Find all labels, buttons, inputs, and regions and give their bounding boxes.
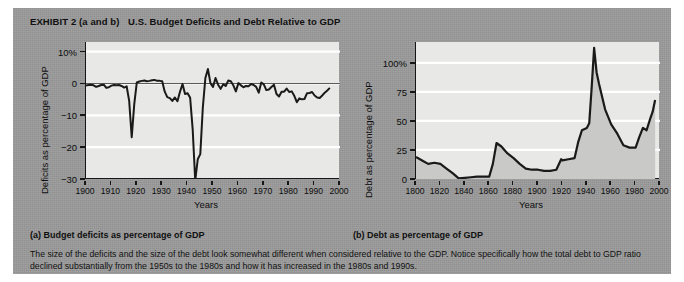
y-tick-label: −10: [25, 110, 77, 121]
x-tick-mark: [84, 181, 86, 185]
y-tick-mark: [80, 83, 85, 85]
x-tick-mark: [338, 181, 340, 185]
chart-panel-deficits: Deficits as percentage of GDP Years 10%0…: [25, 34, 345, 224]
chart-a-canvas: [86, 42, 340, 179]
x-tick-label: 1960: [228, 186, 247, 196]
x-tick-mark: [313, 181, 315, 185]
chart-b-x-axis-title: Years: [519, 199, 543, 210]
x-tick-mark: [512, 181, 514, 185]
x-tick-label: 1940: [177, 186, 196, 196]
y-tick-label: 25: [353, 144, 407, 155]
x-tick-mark: [211, 181, 213, 185]
x-tick-mark: [262, 181, 264, 185]
x-tick-label: 1980: [625, 186, 644, 196]
x-tick-mark: [160, 181, 162, 185]
x-tick-label: 1900: [527, 186, 546, 196]
x-tick-mark: [609, 181, 611, 185]
chart-a-plot-area: [85, 42, 339, 179]
x-tick-label: 1840: [454, 186, 473, 196]
chart-a-caption: (a) Budget deficits as percentage of GDP: [30, 230, 205, 240]
x-tick-mark: [658, 181, 660, 185]
x-tick-mark: [561, 181, 563, 185]
x-tick-label: 1930: [152, 186, 171, 196]
y-tick-mark: [410, 91, 415, 93]
y-tick-label: −30: [25, 174, 77, 185]
series-area: [416, 48, 655, 179]
chart-b-canvas: [416, 42, 660, 179]
y-tick-mark: [80, 114, 85, 116]
chart-b-caption: (b) Debt as percentage of GDP: [353, 230, 483, 240]
x-tick-label: 1940: [576, 186, 595, 196]
exhibit-note: The size of the deficits and the size of…: [30, 248, 650, 272]
x-tick-mark: [135, 181, 137, 185]
x-tick-label: 1900: [75, 186, 94, 196]
y-tick-label: 100%: [353, 57, 407, 68]
x-tick-mark: [287, 181, 289, 185]
y-tick-mark: [410, 62, 415, 64]
x-tick-mark: [487, 181, 489, 185]
chart-b-plot-area: [415, 42, 659, 179]
chart-panel-debt: Debt as percentage of GDP Years 100%7550…: [353, 34, 659, 224]
x-tick-label: 1990: [304, 186, 323, 196]
x-tick-mark: [536, 181, 538, 185]
x-tick-mark: [585, 181, 587, 185]
x-tick-label: 1860: [479, 186, 498, 196]
y-tick-mark: [410, 178, 415, 180]
y-tick-mark: [410, 120, 415, 122]
exhibit-label: EXHIBIT 2 (a and b): [30, 16, 120, 27]
x-tick-label: 1910: [101, 186, 120, 196]
exhibit-panel: EXHIBIT 2 (a and b) U.S. Budget Deficits…: [13, 8, 671, 274]
x-tick-label: 1800: [405, 186, 424, 196]
x-tick-label: 2000: [329, 186, 348, 196]
y-tick-label: 0: [353, 174, 407, 185]
chart-a-x-axis-title: Years: [194, 199, 218, 210]
x-tick-mark: [439, 181, 441, 185]
y-tick-label: 10%: [25, 46, 77, 57]
y-tick-label: 0: [25, 78, 77, 89]
x-tick-label: 1880: [503, 186, 522, 196]
y-tick-mark: [80, 51, 85, 53]
x-tick-label: 1820: [430, 186, 449, 196]
x-tick-label: 1970: [253, 186, 272, 196]
x-tick-label: 1920: [126, 186, 145, 196]
x-tick-mark: [186, 181, 188, 185]
x-tick-mark: [634, 181, 636, 185]
x-tick-label: 1980: [279, 186, 298, 196]
x-tick-mark: [237, 181, 239, 185]
y-tick-label: −20: [25, 142, 77, 153]
y-tick-label: 75: [353, 86, 407, 97]
y-tick-mark: [80, 146, 85, 148]
x-tick-label: 1960: [601, 186, 620, 196]
x-tick-label: 2000: [649, 186, 668, 196]
y-tick-label: 50: [353, 115, 407, 126]
exhibit-header: EXHIBIT 2 (a and b) U.S. Budget Deficits…: [13, 8, 671, 34]
x-tick-mark: [414, 181, 416, 185]
x-tick-label: 1920: [552, 186, 571, 196]
x-tick-mark: [463, 181, 465, 185]
x-tick-mark: [110, 181, 112, 185]
y-tick-mark: [80, 178, 85, 180]
exhibit-title: U.S. Budget Deficits and Debt Relative t…: [128, 16, 340, 27]
y-tick-mark: [410, 149, 415, 151]
series-line: [86, 69, 330, 179]
x-tick-label: 1950: [202, 186, 221, 196]
